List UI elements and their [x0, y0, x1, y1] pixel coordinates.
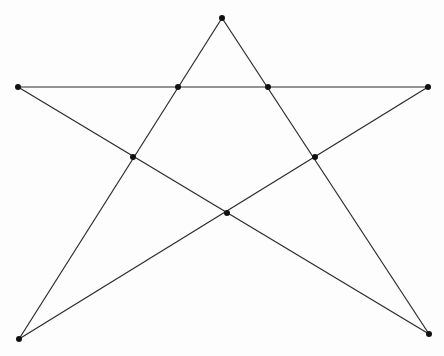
point-inner-top-left — [175, 84, 181, 90]
pentagram-diagram — [0, 0, 444, 356]
point-inner-mid-left — [130, 154, 136, 160]
line-segments — [18, 18, 429, 339]
point-bottom-left — [16, 336, 22, 342]
segment-top-to-bottom-left — [19, 18, 222, 339]
point-inner-mid-right — [312, 154, 318, 160]
segment-top-to-bottom-right — [222, 18, 429, 334]
point-inner-top-right — [265, 84, 271, 90]
vertex-points — [15, 15, 432, 342]
point-right — [425, 84, 431, 90]
point-bottom-right — [426, 331, 432, 337]
point-inner-bottom — [224, 210, 230, 216]
point-top — [219, 15, 225, 21]
point-left — [15, 84, 21, 90]
